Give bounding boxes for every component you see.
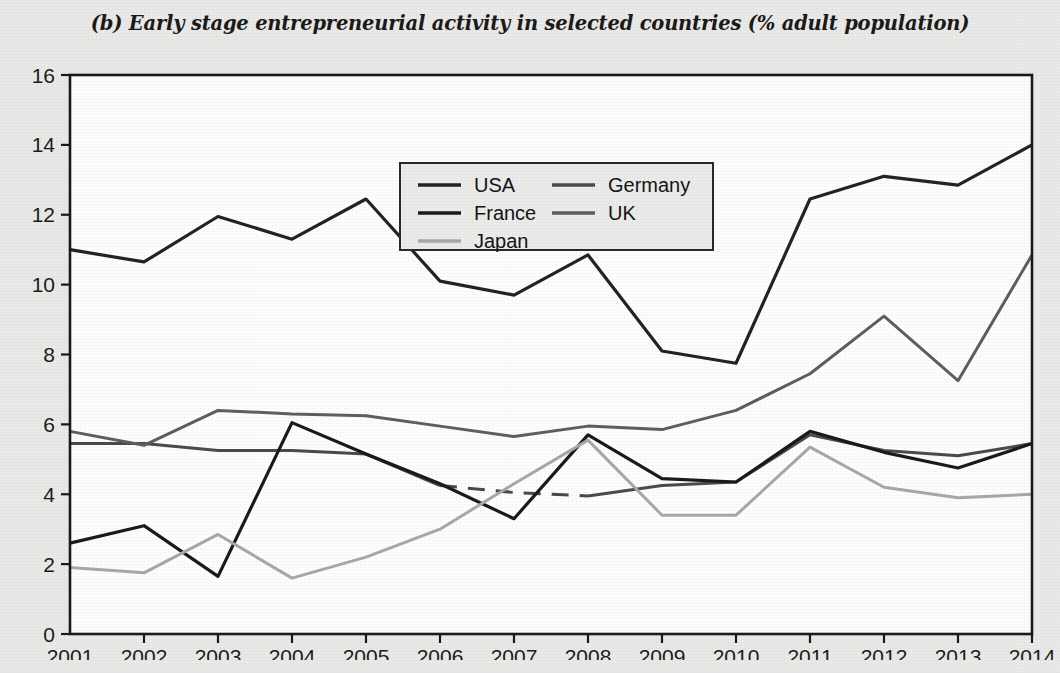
y-axis-tick-label: 2 xyxy=(43,553,55,576)
legend-label-germany: Germany xyxy=(608,174,690,196)
x-axis-tick-label: 2005 xyxy=(343,645,390,660)
y-axis-tick-label: 16 xyxy=(32,64,55,87)
legend-label-france: France xyxy=(474,202,536,224)
x-axis-tick-label: 2008 xyxy=(565,645,612,660)
plot-background xyxy=(70,75,1032,634)
legend-label-uk: UK xyxy=(608,202,636,224)
x-axis-tick-label: 2011 xyxy=(787,645,832,660)
y-axis-tick-label: 8 xyxy=(43,343,55,366)
x-axis-tick-label: 2014 xyxy=(1009,645,1056,660)
y-axis-tick-label: 10 xyxy=(32,273,55,296)
y-axis-tick-label: 6 xyxy=(43,413,55,436)
chart-plot-area: 0246810121416 20012002200320042005200620… xyxy=(0,60,1060,660)
y-axis-tick-label: 4 xyxy=(43,483,55,506)
legend-label-usa: USA xyxy=(474,174,516,196)
x-axis-tick-label: 2003 xyxy=(195,645,242,660)
y-axis-tick-label: 12 xyxy=(32,203,55,226)
x-axis-tick-label: 2002 xyxy=(121,645,168,660)
y-axis-tick-label: 14 xyxy=(32,133,56,156)
chart-legend: USAGermanyFranceUKJapan xyxy=(400,163,713,252)
y-axis-tick-label: 0 xyxy=(43,623,55,646)
x-axis-tick-label: 2009 xyxy=(639,645,686,660)
x-axis-tick-label: 2004 xyxy=(269,645,316,660)
chart-title: (b) Early stage entrepreneurial activity… xyxy=(0,12,1060,35)
x-axis-tick-label: 2007 xyxy=(491,645,538,660)
line-chart-svg: 0246810121416 20012002200320042005200620… xyxy=(0,60,1060,660)
x-axis-tick-label: 2006 xyxy=(417,645,464,660)
x-axis-tick-label: 2001 xyxy=(47,645,94,660)
x-axis-tick-label: 2010 xyxy=(713,645,760,660)
x-axis-tick-label: 2013 xyxy=(935,645,982,660)
y-axis-ticks: 0246810121416 xyxy=(32,64,70,646)
x-axis-ticks: 2001200220032004200520062007200820092010… xyxy=(47,634,1056,660)
x-axis-tick-label: 2012 xyxy=(861,645,908,660)
legend-label-japan: Japan xyxy=(474,230,529,252)
